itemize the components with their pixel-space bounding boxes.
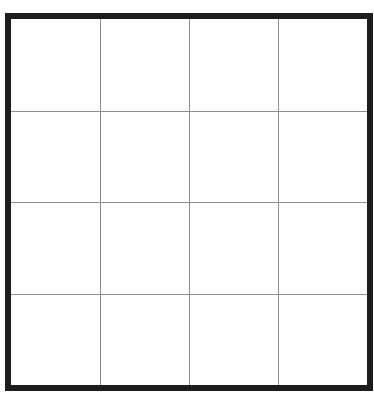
grid-cell <box>100 19 189 111</box>
grid-cell <box>100 294 189 386</box>
grid-cell <box>11 19 100 111</box>
grid-cell <box>11 294 100 386</box>
grid-cell <box>278 294 367 386</box>
grid-cell <box>189 111 278 203</box>
grid-frame <box>5 13 373 391</box>
page-background <box>0 0 374 403</box>
grid-cell <box>278 202 367 294</box>
grid-cell <box>100 202 189 294</box>
grid-cell <box>278 19 367 111</box>
grid-cell <box>278 111 367 203</box>
grid-cell <box>11 202 100 294</box>
grid-cell <box>189 294 278 386</box>
grid-cell <box>100 111 189 203</box>
grid-cell <box>189 202 278 294</box>
grid-cell <box>11 111 100 203</box>
grid-cell <box>189 19 278 111</box>
